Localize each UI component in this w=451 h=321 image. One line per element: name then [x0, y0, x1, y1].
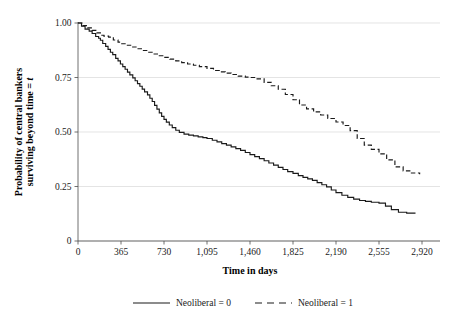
x-tick-label: 365: [114, 247, 129, 257]
kaplan-meier-chart: 00.250.500.751.00 03657301,0951,4601,825…: [0, 0, 451, 321]
x-axis-title: Time in days: [223, 265, 278, 276]
legend-label: Neoliberal = 1: [298, 298, 353, 308]
series-curve-dashed: [78, 23, 420, 174]
x-tick-label: 0: [76, 247, 81, 257]
x-tick-label: 1,095: [196, 247, 218, 257]
y-tick-label: 0: [67, 236, 72, 246]
x-tick-label: 1,825: [282, 247, 304, 257]
y-tick-label: 0.25: [55, 182, 72, 192]
gridlines: [78, 23, 440, 241]
series-curve-solid: [78, 23, 415, 214]
x-tick-label: 730: [157, 247, 172, 257]
y-tick-label: 1.00: [55, 18, 72, 28]
y-tick-labels: 00.250.500.751.00: [55, 18, 72, 246]
x-tick-labels: 03657301,0951,4601,8252,1902,5552,920: [76, 247, 433, 257]
survival-curve-figure: 00.250.500.751.00 03657301,0951,4601,825…: [0, 0, 451, 321]
y-axis-title-line1: Probability of central bankers: [13, 68, 24, 197]
y-tick-label: 0.75: [55, 73, 72, 83]
x-tick-label: 2,555: [368, 247, 390, 257]
axis-titles: Time in daysProbability of central banke…: [13, 68, 278, 276]
data-curves: [78, 23, 420, 214]
y-tick-label: 0.50: [55, 127, 72, 137]
x-tick-label: 2,190: [325, 247, 347, 257]
x-tick-label: 2,920: [411, 247, 433, 257]
x-tick-label: 1,460: [239, 247, 261, 257]
tick-marks: [75, 23, 423, 245]
legend-label: Neoliberal = 0: [176, 298, 231, 308]
chart-legend: Neoliberal = 0Neoliberal = 1: [133, 298, 353, 308]
y-axis-title-line2: surviving beyond time = t: [24, 77, 35, 187]
axes: [78, 22, 440, 241]
